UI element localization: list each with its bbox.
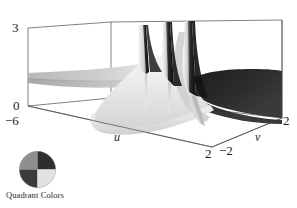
surface-plot-figure: 3 0 −6 2 −2 2 u v Quadrant Colors	[0, 0, 297, 208]
u-axis-tick-max: 2	[205, 147, 212, 160]
u-axis-tick-min: −6	[5, 114, 19, 127]
z-axis-tick-max: 3	[12, 21, 19, 34]
quadrant-colors-legend	[19, 151, 56, 188]
u-axis-label: u	[114, 131, 120, 143]
v-axis-tick-min: −2	[219, 144, 233, 157]
z-axis-tick-min: 0	[13, 99, 20, 112]
quadrant-colors-wheel-icon	[19, 151, 56, 188]
v-axis-label: v	[255, 131, 260, 143]
quadrant-colors-caption: Quadrant Colors	[6, 190, 64, 200]
v-axis-tick-max: 2	[283, 114, 290, 127]
surface-mesh	[28, 21, 282, 135]
